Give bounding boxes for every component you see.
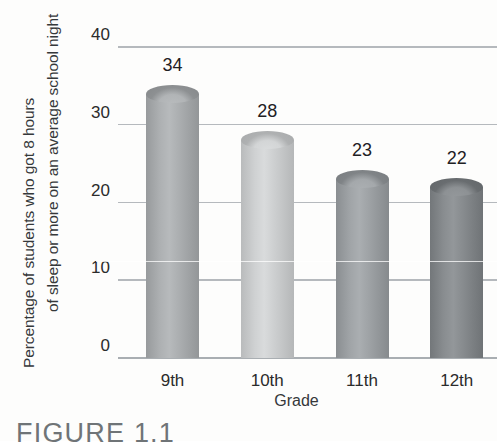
bar-body [430, 187, 483, 358]
bar-cap [430, 178, 483, 196]
figure-caption: FIGURE 1.1 [16, 418, 175, 446]
bar-body [241, 140, 294, 358]
bar-body [336, 179, 389, 358]
x-tick-label-12th: 12th [440, 371, 473, 391]
y-tick-label-10: 10 [70, 258, 110, 278]
y-tick-label-0: 0 [70, 336, 110, 356]
y-axis-title-line-1: Percentage of students who got 8 hours [20, 98, 38, 368]
x-tick-label-9th: 9th [161, 371, 185, 391]
y-tick-label-40: 40 [70, 25, 110, 45]
bar-12th[interactable]: 22 [430, 178, 483, 358]
bar-11th[interactable]: 23 [336, 170, 389, 358]
x-axis-title: Grade [96, 392, 497, 410]
y-tick-label-30: 30 [70, 103, 110, 123]
bar-10th[interactable]: 28 [241, 131, 294, 358]
y-tick-label-20: 20 [70, 181, 110, 201]
bar-value-label-12th: 22 [447, 148, 467, 169]
bar-cap [146, 85, 199, 103]
x-tick-label-10th: 10th [251, 371, 284, 391]
y-axis-title-line-2: of sleep or more on an average school ni… [44, 14, 62, 312]
bar-cap [336, 170, 389, 188]
bar-9th[interactable]: 34 [146, 85, 199, 358]
bar-body [146, 94, 199, 358]
x-tick-label-11th: 11th [346, 371, 378, 391]
bar-value-label-11th: 23 [352, 140, 372, 161]
bar-value-label-10th: 28 [257, 101, 277, 122]
plot-area: 010203040 349th2810th2311th2212th [96, 22, 497, 367]
bar-value-label-9th: 34 [162, 55, 182, 76]
bar-series: 349th2810th2311th2212th [118, 22, 497, 367]
